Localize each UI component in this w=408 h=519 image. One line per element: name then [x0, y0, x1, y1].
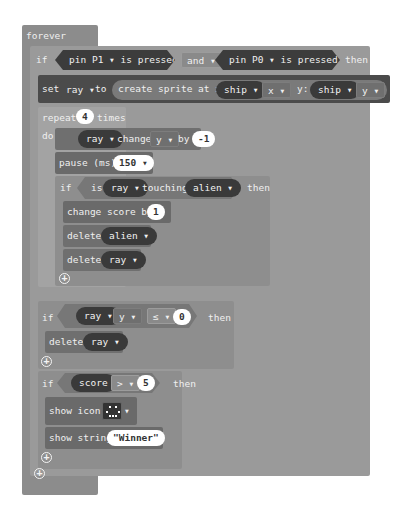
- chevron-down-icon: ▾: [107, 310, 113, 321]
- ray-sprite-dropdown[interactable]: ray ▾: [83, 333, 128, 351]
- comparison-operator-dropdown[interactable]: > ▾: [111, 375, 140, 391]
- chevron-down-icon: ▾: [373, 85, 379, 96]
- add-else-icon[interactable]: +: [41, 452, 52, 463]
- pin-dropdown[interactable]: P1 ▾: [92, 54, 115, 65]
- score-variable[interactable]: score: [71, 374, 116, 392]
- add-else-icon[interactable]: +: [41, 356, 52, 367]
- led-icon: [118, 411, 120, 413]
- ray-sprite-dropdown[interactable]: ray ▾: [103, 179, 148, 197]
- do-label: do: [42, 129, 53, 143]
- change-label: change: [117, 132, 151, 146]
- by-label: by: [178, 132, 189, 146]
- chevron-down-icon: ▾: [89, 84, 95, 95]
- ship-sprite-y-dropdown[interactable]: ship ▾: [310, 81, 360, 99]
- is-label: is: [91, 182, 102, 193]
- show-string-label: show string: [49, 431, 112, 445]
- chevron-down-icon: ▾: [134, 182, 140, 193]
- chevron-down-icon: ▾: [167, 134, 173, 145]
- set-label: set: [42, 82, 59, 96]
- chevron-down-icon: ▾: [114, 336, 120, 347]
- chevron-down-icon: ▾: [164, 311, 170, 322]
- chevron-down-icon[interactable]: ▾: [124, 404, 130, 418]
- y-property-dropdown[interactable]: y ▾: [150, 131, 179, 147]
- compare-value-input[interactable]: 0: [173, 309, 191, 325]
- led-icon: [109, 415, 111, 417]
- if-keyword: if: [36, 53, 47, 67]
- chevron-down-icon: ▾: [227, 182, 233, 193]
- ship-sprite-x-dropdown[interactable]: ship ▾: [216, 81, 266, 99]
- delete-label: delete: [67, 229, 101, 243]
- if-keyword: if: [42, 311, 53, 325]
- y-property-dropdown[interactable]: y ▾: [356, 82, 385, 98]
- if-keyword: if: [60, 181, 71, 195]
- add-else-icon[interactable]: +: [34, 468, 45, 479]
- ray-sprite-dropdown[interactable]: ray ▾: [78, 130, 123, 148]
- change-score-label: change score by: [67, 205, 153, 219]
- led-icon: [106, 411, 108, 413]
- x-property-dropdown[interactable]: x ▾: [262, 82, 291, 98]
- y-label: y:: [297, 82, 308, 96]
- ray-sprite-dropdown[interactable]: ray ▾: [101, 251, 146, 269]
- chevron-down-icon: ▾: [142, 157, 148, 168]
- forever-label: forever: [26, 29, 66, 43]
- repeat-label: repeat: [42, 111, 76, 125]
- alien-sprite-dropdown[interactable]: alien ▾: [185, 179, 241, 197]
- create-sprite-label: create sprite at x:: [118, 82, 227, 96]
- then-label: then: [208, 311, 231, 325]
- is-pressed-label: is pressed: [121, 54, 178, 65]
- pause-value-dropdown[interactable]: 150 ▾: [113, 155, 154, 171]
- if-keyword: if: [42, 377, 53, 391]
- chevron-down-icon: ▾: [128, 378, 134, 389]
- then-label: then: [173, 377, 196, 391]
- chevron-down-icon: ▾: [132, 254, 138, 265]
- then-label: then: [345, 53, 368, 67]
- chevron-down-icon: ▾: [143, 230, 149, 241]
- is-pressed-label: is pressed: [281, 54, 338, 65]
- compare-value-input[interactable]: 5: [137, 375, 155, 391]
- led-icon: [115, 406, 117, 408]
- pin-label: pin: [69, 54, 86, 65]
- touching-label: touching: [142, 181, 188, 195]
- pause-label: pause (ms): [59, 156, 116, 170]
- pin-dropdown[interactable]: P0 ▾: [252, 54, 275, 65]
- pin-p0-pressed-condition[interactable]: pin P0 ▾ is pressed: [215, 50, 340, 70]
- led-icon: [112, 415, 114, 417]
- score-value-input[interactable]: 1: [147, 204, 165, 220]
- y-property-dropdown[interactable]: y ▾: [113, 308, 142, 324]
- chevron-down-icon: ▾: [130, 311, 136, 322]
- chevron-down-icon: ▾: [210, 55, 216, 66]
- led-icon: [115, 415, 117, 417]
- pin-p1-pressed-condition[interactable]: pin P1 ▾ is pressed: [55, 50, 175, 70]
- delete-label: delete: [49, 335, 83, 349]
- add-else-icon[interactable]: +: [59, 273, 70, 284]
- chevron-down-icon: ▾: [347, 84, 353, 95]
- led-icon: [109, 406, 111, 408]
- to-label: to: [95, 82, 106, 96]
- led-icon-dropdown[interactable]: [102, 402, 122, 420]
- then-label: then: [247, 181, 270, 195]
- chevron-down-icon: ▾: [253, 84, 259, 95]
- repeat-count-input[interactable]: 4: [76, 109, 94, 124]
- alien-sprite-dropdown[interactable]: alien ▾: [101, 227, 157, 245]
- comparison-operator-dropdown[interactable]: ≤ ▾: [147, 308, 176, 324]
- string-value-input[interactable]: "Winner": [107, 430, 165, 446]
- times-label: times: [97, 111, 126, 125]
- delete-label: delete: [67, 253, 101, 267]
- chevron-down-icon: ▾: [279, 85, 285, 96]
- change-value-input[interactable]: -1: [192, 131, 215, 147]
- pin-label: pin: [229, 54, 246, 65]
- chevron-down-icon: ▾: [109, 133, 115, 144]
- show-icon-label: show icon: [49, 404, 100, 418]
